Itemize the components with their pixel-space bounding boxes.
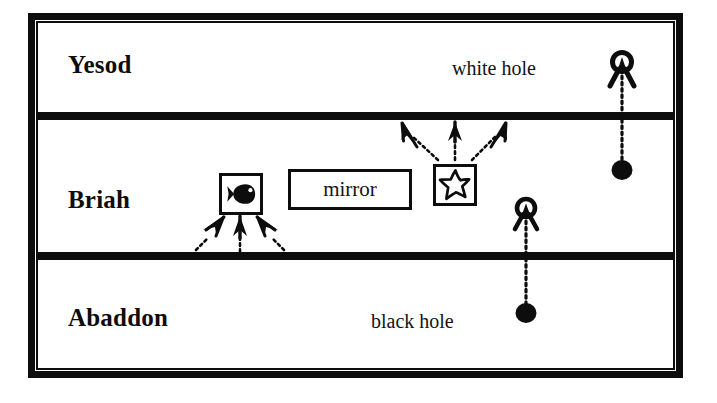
band-divider-briah-abaddon [36,252,675,260]
band-divider-yesod-briah [36,112,675,120]
band-label-abaddon: Abaddon [68,304,168,332]
star-icon [436,167,474,203]
mirror-box: mirror [288,169,412,210]
fish-icon [222,176,260,212]
band-label-briah: Briah [68,186,130,214]
white-hole-label: white hole [452,57,536,80]
star-box [433,164,477,206]
diagram-canvas: Yesod Briah Abaddon white hole black hol… [0,0,717,403]
black-hole-label: black hole [371,310,454,333]
band-label-yesod: Yesod [68,51,132,79]
fish-box [219,173,263,215]
mirror-label: mirror [323,179,377,200]
